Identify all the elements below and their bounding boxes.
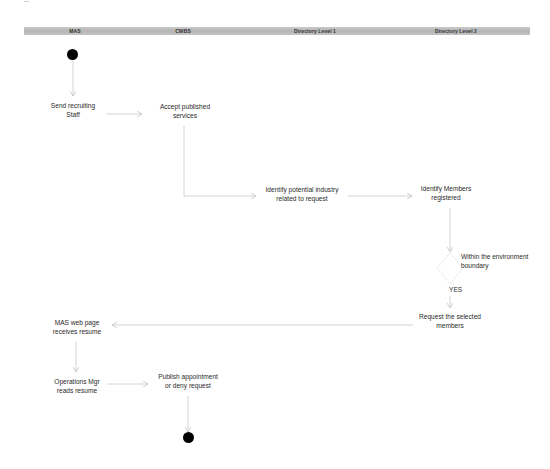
guard-yes-label: YES [449,285,462,294]
activity-send-recruiting-staff: Send recruiting Staff [51,101,95,119]
activity-line: services [160,111,210,120]
activity-line: Staff [51,110,95,119]
activity-line: registered [421,193,472,202]
activity-publish-appointment: Publish appointment or deny request [158,372,218,390]
activity-operations-mgr-reads-resume: Operations Mgr reads resume [54,377,99,395]
decision-line: boundary [461,261,528,270]
activity-line: related to request [266,194,339,203]
edges-layer [0,0,550,469]
activity-line: or deny request [158,381,218,390]
activity-identify-potential-industry: Identify potential industry related to r… [266,185,339,203]
decision-label-within-environment: Within the environment boundary [461,252,528,270]
activity-line: Operations Mgr [54,377,99,386]
activity-mas-web-page-receives-resume: MAS web page receives resume [53,318,101,336]
activity-line: reads resume [54,386,99,395]
activity-line: members [419,321,481,330]
activity-line: Send recruiting [51,101,95,110]
activity-line: receives resume [53,327,101,336]
decision-line: Within the environment [461,252,528,261]
activity-identify-members-registered: Identify Members registered [421,184,472,202]
activity-line: Publish appointment [158,372,218,381]
activity-line: MAS web page [53,318,101,327]
activity-line: Identify Members [421,184,472,193]
edge-accept-to-identify-industry [184,126,256,196]
activity-accept-published-services: Accept published services [160,102,210,120]
decision-diamond [437,253,463,284]
end-node [183,432,194,443]
activity-line: Request the selected [419,312,481,321]
activity-line: Identify potential industry [266,185,339,194]
activity-request-selected-members: Request the selected members [419,312,481,330]
start-node [67,49,78,60]
activity-line: Accept published [160,102,210,111]
